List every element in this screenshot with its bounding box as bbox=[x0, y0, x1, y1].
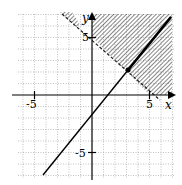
shaded-region bbox=[60, 12, 172, 95]
coordinate-plane: -5 5 x 5 -5 y bbox=[0, 0, 182, 185]
y-axis-label: y bbox=[81, 11, 89, 25]
intersection-point bbox=[126, 68, 131, 73]
x-tick-label-neg5: -5 bbox=[26, 98, 37, 111]
y-tick-label-neg5: -5 bbox=[75, 147, 86, 160]
y-tick-label-pos5: 5 bbox=[82, 31, 89, 44]
x-tick-label-pos5: 5 bbox=[146, 98, 153, 111]
x-axis-label: x bbox=[165, 98, 172, 112]
